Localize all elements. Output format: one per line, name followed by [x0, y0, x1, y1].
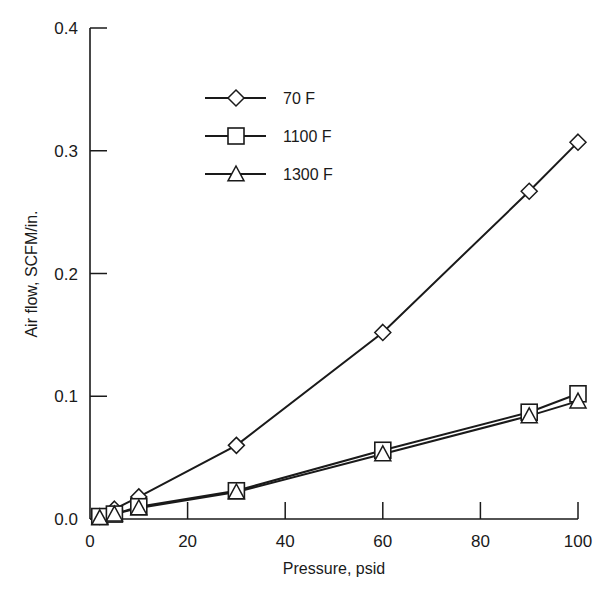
legend-diamond-icon — [228, 90, 244, 106]
legend-label: 1300 F — [283, 166, 333, 183]
y-tick-label: 0.2 — [54, 265, 78, 284]
y-tick-label: 0.0 — [54, 510, 78, 529]
y-tick-label: 0.4 — [54, 19, 78, 38]
x-tick-label: 0 — [85, 532, 94, 551]
axes: 0.00.10.20.30.4020406080100 — [54, 19, 592, 551]
data-series — [92, 134, 586, 524]
x-tick-label: 40 — [276, 532, 295, 551]
y-tick-label: 0.3 — [54, 142, 78, 161]
diamond-marker — [228, 437, 244, 453]
series-line-0 — [100, 142, 578, 516]
y-tick-label: 0.1 — [54, 387, 78, 406]
legend-square-icon — [228, 128, 244, 144]
line-chart: 0.00.10.20.30.4020406080100 70 F1100 F13… — [0, 0, 610, 596]
legend-label: 70 F — [283, 90, 315, 107]
x-tick-label: 20 — [178, 532, 197, 551]
y-axis-title: Air flow, SCFM/in. — [23, 210, 40, 337]
legend: 70 F1100 F1300 F — [205, 90, 333, 183]
x-tick-label: 100 — [564, 532, 592, 551]
x-tick-label: 60 — [373, 532, 392, 551]
x-axis-title: Pressure, psid — [283, 560, 385, 577]
x-tick-label: 80 — [471, 532, 490, 551]
legend-label: 1100 F — [283, 128, 332, 145]
series-line-1 — [100, 394, 578, 517]
